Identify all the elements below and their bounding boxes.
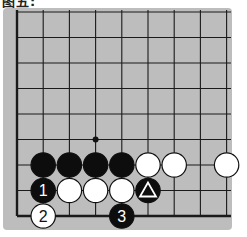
white-stone (57, 178, 81, 202)
black-stone: 3 (110, 204, 134, 228)
white-stone (162, 153, 186, 177)
white-stone (214, 153, 238, 177)
black-stone (110, 153, 134, 177)
star-point (93, 137, 99, 143)
white-stone (136, 153, 160, 177)
move-number-label: 3 (117, 208, 126, 225)
white-stone (83, 178, 107, 202)
black-stone (31, 153, 55, 177)
black-stone (136, 178, 160, 202)
black-stone (57, 153, 81, 177)
black-stone (83, 153, 107, 177)
move-number-label: 1 (39, 182, 48, 199)
black-stone: 1 (31, 178, 55, 202)
move-number-label: 2 (39, 208, 48, 225)
white-stone (110, 178, 134, 202)
go-board-grid: 123 (0, 0, 247, 237)
white-stone: 2 (31, 204, 55, 228)
